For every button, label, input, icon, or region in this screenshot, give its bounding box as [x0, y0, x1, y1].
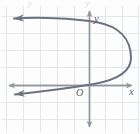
- parabola-lower-branch: [15, 58, 131, 94]
- x-axis-label: x: [128, 85, 134, 97]
- graph-canvas: y x O: [0, 0, 140, 134]
- parabola-upper-branch: [14, 18, 131, 58]
- y-axis-label: y: [93, 12, 99, 24]
- origin-label: O: [76, 87, 83, 98]
- grid-lines: [2, 6, 139, 132]
- parabola-curve: [14, 18, 131, 95]
- parabola-figure: y y: [0, 0, 140, 134]
